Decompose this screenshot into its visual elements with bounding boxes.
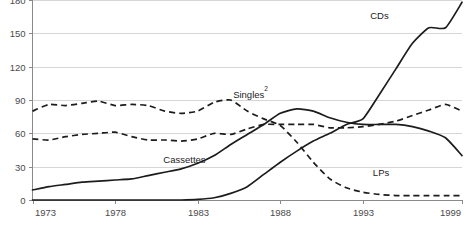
x-tick-label: 1993	[353, 207, 374, 218]
x-tick-label: 1978	[105, 207, 126, 218]
y-tick-label: 30	[15, 162, 26, 173]
series-label-text: Cassettes	[163, 154, 205, 165]
x-tick-label: 1988	[270, 207, 291, 218]
series-line-singles2	[33, 104, 463, 141]
y-tick-labels: 0306090120150180	[10, 0, 26, 206]
x-tick-label: 1999	[440, 207, 461, 218]
chart-canvas: 0306090120150180 19731978198319881993199…	[0, 0, 466, 225]
y-tick-label: 120	[10, 62, 26, 73]
series-label-text: CDs	[370, 10, 389, 21]
series-label-singles2: Singles2	[233, 85, 268, 100]
gridlines	[33, 1, 463, 168]
x-tick-label: 1983	[188, 207, 209, 218]
series-labels: LPsSingles2CassettesCDs	[163, 10, 389, 178]
y-tick-marks	[29, 1, 33, 201]
y-tick-label: 60	[15, 128, 26, 139]
line-chart: 0306090120150180 19731978198319881993199…	[0, 0, 466, 225]
series-label-cds: CDs	[370, 10, 389, 21]
series-paths	[33, 2, 463, 200]
series-label-text: Singles	[233, 89, 264, 100]
x-tick-label: 1973	[35, 207, 56, 218]
series-label-cassettes: Cassettes	[163, 154, 205, 165]
y-tick-label: 150	[10, 28, 26, 39]
series-label-lps: LPs	[373, 167, 390, 178]
y-tick-label: 180	[10, 0, 26, 6]
x-tick-labels: 197319781983198819931999	[35, 207, 461, 218]
y-tick-label: 90	[15, 95, 26, 106]
series-label-superscript: 2	[264, 85, 268, 92]
series-label-text: LPs	[373, 167, 390, 178]
y-tick-label: 0	[20, 195, 25, 206]
